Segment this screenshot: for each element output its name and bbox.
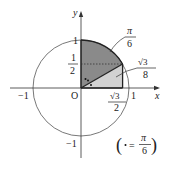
legend-numerator: π	[141, 132, 147, 143]
origin-label: O	[71, 90, 78, 101]
tick-y-neg-one: −1	[66, 138, 77, 149]
x-axis-label: x	[154, 90, 160, 101]
triangle-label-denominator: 8	[143, 69, 148, 80]
sector-label-numerator: π	[127, 25, 133, 36]
unit-circle-diagram: y x O −1 1 1 −1 1 2 √3 2 π 6 √3 8 ( = π …	[0, 0, 171, 173]
y-axis-arrow-icon	[79, 11, 83, 17]
tick-x-root3-denominator: 2	[114, 102, 119, 113]
legend-equals: =	[129, 140, 135, 151]
legend-open-paren: (	[116, 135, 122, 156]
legend-dot-icon	[125, 144, 127, 146]
angle-legend: ( = π 6 )	[116, 132, 157, 156]
angle-mark-dot-icon	[85, 78, 87, 80]
tick-y-one: 1	[73, 35, 78, 46]
legend-close-paren: )	[151, 135, 157, 156]
tick-x-one: 1	[131, 90, 136, 101]
triangle-label-numerator: √3	[138, 57, 148, 67]
tick-y-half-numerator: 1	[71, 52, 76, 63]
angle-mark-dot-icon	[87, 80, 89, 82]
sector-label-denominator: 6	[127, 38, 132, 49]
sector-leader-line	[110, 37, 125, 52]
angle-mark-dot-icon	[90, 84, 92, 86]
tick-y-half-denominator: 2	[70, 65, 75, 76]
y-axis-label: y	[72, 7, 78, 18]
legend-denominator: 6	[142, 145, 147, 156]
tick-x-root3-numerator: √3	[110, 91, 120, 101]
tick-x-neg-one: −1	[18, 90, 29, 101]
